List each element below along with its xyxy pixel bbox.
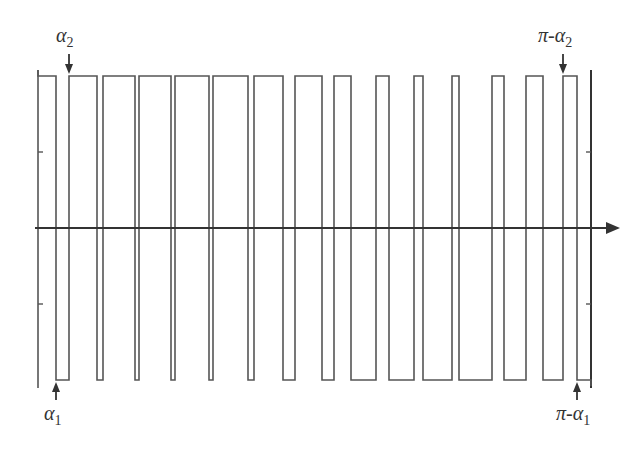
label-pi-minus-alpha1-main: π-α <box>556 402 583 424</box>
label-pi-minus-alpha1: π-α1 <box>556 402 590 429</box>
pwm-waveform-diagram <box>0 0 644 449</box>
label-pi-minus-alpha2-sub: 2 <box>565 35 572 50</box>
label-pi-minus-alpha2-main: π-α <box>538 24 565 46</box>
label-pi-minus-alpha1-sub: 1 <box>583 413 590 428</box>
label-alpha1-sub: 1 <box>55 413 62 428</box>
label-alpha1: α1 <box>44 402 62 429</box>
label-alpha2-sub: 2 <box>67 35 74 50</box>
label-pi-minus-alpha2: π-α2 <box>538 24 572 51</box>
label-alpha2-main: α <box>56 24 67 46</box>
horizontal-axis <box>35 222 620 234</box>
label-alpha1-main: α <box>44 402 55 424</box>
label-alpha2: α2 <box>56 24 74 51</box>
